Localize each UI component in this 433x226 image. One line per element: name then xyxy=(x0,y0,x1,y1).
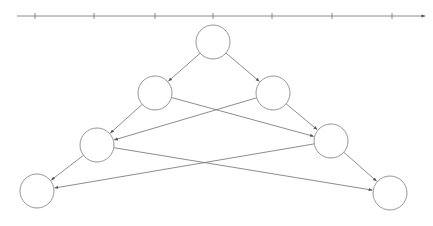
node-n7 xyxy=(373,176,407,210)
node-n1 xyxy=(196,25,230,59)
edge-n3-n4 xyxy=(114,98,256,140)
edges xyxy=(51,53,376,190)
edge-n2-n4 xyxy=(110,104,142,133)
tree-diagram xyxy=(0,0,433,226)
node-n4 xyxy=(80,128,114,162)
node-n6 xyxy=(20,174,54,208)
edge-n5-n7 xyxy=(344,152,377,181)
diagram-canvas xyxy=(0,0,433,226)
node-n2 xyxy=(138,76,172,110)
edge-n1-n2 xyxy=(169,53,201,81)
edge-n1-n3 xyxy=(226,53,259,81)
node-n3 xyxy=(256,76,290,110)
timeline-axis xyxy=(17,13,425,19)
edge-n3-n5 xyxy=(286,104,317,130)
node-n5 xyxy=(314,124,348,158)
nodes xyxy=(20,25,407,210)
edge-n4-n6 xyxy=(51,155,83,180)
